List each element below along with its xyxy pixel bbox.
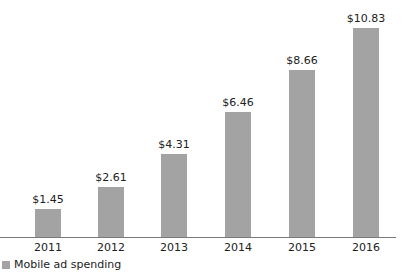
value-label-2014: $6.46 bbox=[208, 96, 268, 109]
value-label-2012: $2.61 bbox=[81, 171, 141, 184]
legend-label: Mobile ad spending bbox=[14, 258, 121, 271]
bar-2016 bbox=[353, 28, 379, 237]
bar-2013 bbox=[161, 154, 187, 237]
category-label-2011: 2011 bbox=[18, 241, 78, 254]
x-axis-line bbox=[0, 237, 396, 238]
value-label-2016: $10.83 bbox=[336, 12, 396, 25]
legend: Mobile ad spending bbox=[2, 258, 121, 271]
legend-swatch bbox=[2, 261, 10, 269]
bar-2011 bbox=[35, 209, 61, 237]
bar-2015 bbox=[289, 70, 315, 237]
category-label-2014: 2014 bbox=[208, 241, 268, 254]
value-label-2011: $1.45 bbox=[18, 193, 78, 206]
bar-2014 bbox=[225, 112, 251, 237]
category-label-2012: 2012 bbox=[81, 241, 141, 254]
category-label-2015: 2015 bbox=[272, 241, 332, 254]
value-label-2015: $8.66 bbox=[272, 54, 332, 67]
category-label-2016: 2016 bbox=[336, 241, 396, 254]
category-label-2013: 2013 bbox=[144, 241, 204, 254]
value-label-2013: $4.31 bbox=[144, 138, 204, 151]
bar-2012 bbox=[98, 187, 124, 237]
bar-chart: $1.452011$2.612012$4.312013$6.462014$8.6… bbox=[0, 0, 411, 274]
